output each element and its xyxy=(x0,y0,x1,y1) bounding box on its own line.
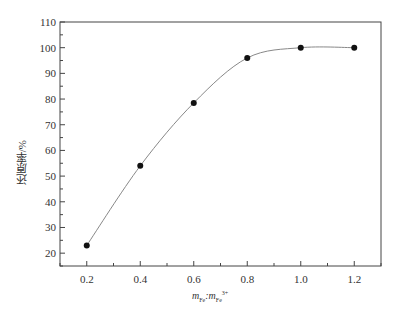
y-axis-label: 还原率/% xyxy=(14,140,30,185)
x-tick-label: 0.6 xyxy=(187,273,201,285)
x-axis-label: mFe:mFe3+ xyxy=(192,290,228,303)
y-tick-label: 30 xyxy=(45,221,57,233)
x-tick-label: 0.4 xyxy=(133,273,147,285)
y-tick-label: 70 xyxy=(45,119,57,131)
data-point xyxy=(298,45,304,51)
data-point xyxy=(351,45,357,51)
x-label-sup2: 3+ xyxy=(222,290,228,296)
y-tick-label: 80 xyxy=(45,93,57,105)
y-tick-label: 90 xyxy=(45,67,57,79)
data-point xyxy=(84,242,90,248)
y-tick-label: 100 xyxy=(40,42,57,54)
plot-frame xyxy=(60,22,381,266)
x-tick-label: 0.8 xyxy=(240,273,254,285)
data-point xyxy=(137,163,143,169)
series-line xyxy=(87,47,355,246)
x-tick-label: 0.2 xyxy=(80,273,94,285)
y-tick-label: 60 xyxy=(45,144,57,156)
x-label-sub2: Fe xyxy=(216,297,222,303)
y-tick-label: 50 xyxy=(45,170,57,182)
x-tick-label: 1.0 xyxy=(294,273,308,285)
data-point xyxy=(191,100,197,106)
data-point xyxy=(244,55,250,61)
line-chart: 20304050607080901001100.20.40.60.81.01.2 xyxy=(0,0,402,323)
y-tick-label: 110 xyxy=(40,16,57,28)
y-tick-label: 40 xyxy=(45,196,57,208)
x-label-m2: m xyxy=(209,290,216,301)
y-tick-label: 20 xyxy=(45,247,57,259)
x-tick-label: 1.2 xyxy=(347,273,361,285)
